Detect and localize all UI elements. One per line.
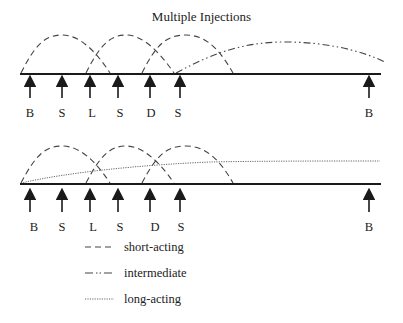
legend-label: long-acting: [124, 292, 182, 306]
short-acting-curve-2: [86, 146, 174, 183]
injection-label: S: [59, 220, 66, 234]
top-panel: B S L S D S B: [20, 35, 385, 120]
legend-label: short-acting: [124, 240, 184, 254]
short-acting-curve-2: [86, 35, 174, 73]
legend-item-long-acting: long-acting: [85, 292, 182, 306]
legend-item-short-acting: short-acting: [85, 240, 184, 254]
injection-label: B: [365, 220, 373, 234]
injection-label: S: [175, 106, 182, 120]
injection-label: S: [117, 106, 124, 120]
injection-label: S: [117, 220, 124, 234]
short-acting-curve-3: [142, 35, 233, 73]
legend-item-intermediate: intermediate: [85, 266, 187, 280]
injection-label: S: [59, 106, 66, 120]
injection-arrows: [30, 194, 369, 212]
injection-labels: B S L S D S B: [30, 220, 373, 234]
injection-label: B: [26, 106, 34, 120]
injection-label: L: [89, 220, 97, 234]
injection-label: L: [88, 106, 96, 120]
injection-diagram: B S L S D S B B S L S D: [0, 0, 403, 323]
legend: short-acting intermediate long-acting: [85, 240, 187, 306]
bottom-panel: B S L S D S B: [20, 146, 381, 234]
injection-labels: B S L S D S B: [26, 106, 373, 120]
short-acting-curve-3: [142, 146, 233, 183]
long-acting-curve: [21, 161, 380, 183]
injection-label: B: [30, 220, 38, 234]
injection-label: D: [150, 220, 159, 234]
intermediate-curve: [176, 42, 385, 73]
injection-label: B: [365, 106, 373, 120]
legend-label: intermediate: [124, 266, 187, 280]
injection-arrows: [30, 81, 369, 98]
injection-label: S: [178, 220, 185, 234]
injection-label: D: [146, 106, 155, 120]
